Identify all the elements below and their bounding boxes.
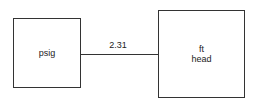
psig-label: psig	[39, 48, 56, 58]
conversion-connector-line	[81, 54, 158, 55]
psig-box: psig	[13, 18, 81, 88]
head-label: head	[191, 54, 211, 64]
conversion-factor-label: 2.31	[96, 40, 140, 50]
ft-head-box: ft head	[158, 10, 245, 98]
ft-label: ft	[199, 44, 204, 54]
